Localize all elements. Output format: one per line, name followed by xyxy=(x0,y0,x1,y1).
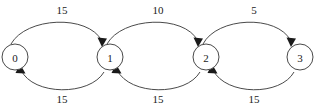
node-2-label: 2 xyxy=(203,52,209,64)
edge-3-to-2: 15 xyxy=(208,64,295,105)
node-3-label: 3 xyxy=(297,52,303,64)
edge-1-to-0-path xyxy=(21,70,104,90)
edge-label-2-3: 5 xyxy=(251,4,257,16)
edge-0-to-1-path xyxy=(11,22,102,44)
edge-label-2-1: 15 xyxy=(153,93,165,105)
edge-label-3-2: 15 xyxy=(249,93,261,105)
edge-2-to-1: 15 xyxy=(112,64,201,105)
edge-2-to-3-path xyxy=(203,22,291,44)
edge-1-to-2-path xyxy=(107,22,198,44)
edge-1-to-0: 15 xyxy=(16,64,105,105)
node-0-label: 0 xyxy=(12,52,18,64)
graph-diagram-canvas: 15 15 10 15 5 15 xyxy=(0,0,314,108)
edge-label-0-1: 15 xyxy=(57,4,69,16)
edge-3-to-2-path xyxy=(213,70,294,90)
edge-0-to-1: 15 xyxy=(11,4,107,47)
node-3[interactable]: 3 xyxy=(287,44,313,70)
node-0[interactable]: 0 xyxy=(2,44,28,70)
edge-label-1-2: 10 xyxy=(153,4,165,16)
graph-svg: 15 15 10 15 5 15 xyxy=(0,0,314,108)
edge-label-1-0: 15 xyxy=(57,93,69,105)
node-1[interactable]: 1 xyxy=(97,44,123,70)
edge-2-to-3: 5 xyxy=(203,4,296,47)
edge-1-to-2: 10 xyxy=(107,4,203,47)
edge-2-to-1-path xyxy=(117,70,200,90)
node-2[interactable]: 2 xyxy=(193,44,219,70)
node-1-label: 1 xyxy=(107,52,113,64)
